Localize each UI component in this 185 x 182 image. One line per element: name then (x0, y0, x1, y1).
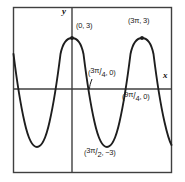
y-axis-label: y (62, 7, 66, 16)
label-minimum: (3π/2, −3) (84, 147, 116, 158)
x-axis-label: x (163, 71, 168, 80)
label-zero-first-rest: , 0) (105, 68, 115, 77)
label-minimum-rest: , −3) (101, 148, 115, 157)
label-origin-maximum: (0, 3) (76, 22, 92, 30)
label-minimum-denominator: 2 (97, 150, 101, 159)
label-zero-second-fraction: 9π/4 (124, 91, 139, 102)
label-zero-first: (3π/4, 0) (88, 67, 115, 78)
label-zero-first-numerator: 3π (90, 66, 99, 75)
label-zero-second-rest: , 0) (139, 92, 149, 101)
trig-graph-figure: (0, 3) (3π, 3) (3π/4, 0) (9π/4, 0) (3π/2… (0, 0, 185, 182)
label-zero-second: (9π/4, 0) (122, 91, 149, 102)
label-zero-second-denominator: 4 (135, 94, 139, 103)
label-zero-first-denominator: 4 (101, 70, 105, 79)
label-zero-second-numerator: 9π (124, 90, 133, 99)
label-minimum-numerator: 3π (86, 146, 95, 155)
label-minimum-fraction: 3π/2 (86, 147, 101, 158)
label-right-maximum: (3π, 3) (128, 17, 149, 25)
point-marker-origin-max (70, 36, 74, 40)
point-marker-right-max (140, 36, 144, 40)
label-zero-first-fraction: 3π/4 (90, 67, 105, 78)
